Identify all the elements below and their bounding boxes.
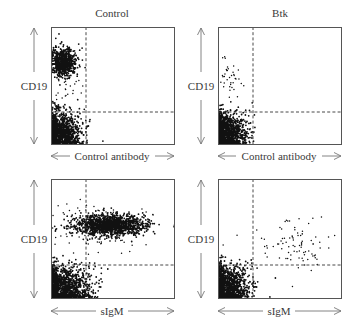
y-axis-label: CD19 xyxy=(188,80,215,92)
y-axis-bottom-right: CD19 xyxy=(188,180,215,298)
column-title-btk: Btk xyxy=(272,7,288,19)
x-axis-top-left: Control antibody xyxy=(51,150,174,162)
x-axis-label: sIgM xyxy=(267,305,290,317)
scatter-panel-bottom-right xyxy=(217,179,341,299)
x-axis-bottom-right: sIgM xyxy=(218,305,341,317)
x-axis-label: Control antibody xyxy=(75,150,150,162)
y-axis-bottom-left: CD19 xyxy=(21,180,48,298)
data-points xyxy=(209,56,256,145)
y-axis-label: CD19 xyxy=(21,80,48,92)
scatter-panel-top-right xyxy=(209,27,342,145)
column-title-control: Control xyxy=(95,7,129,19)
data-points xyxy=(38,33,104,145)
x-axis-top-right: Control antibody xyxy=(218,150,341,162)
scatter-panels xyxy=(24,27,341,299)
flow-cytometry-figure: Control Btk CD19 CD19 CD19 CD19 Control … xyxy=(0,0,361,327)
x-axis-label: Control antibody xyxy=(242,150,317,162)
y-axis-top-left: CD19 xyxy=(21,28,48,144)
x-axis-bottom-left: sIgM xyxy=(51,305,174,317)
y-axis-top-right: CD19 xyxy=(188,28,215,144)
y-axis-label: CD19 xyxy=(188,233,215,245)
y-axis-label: CD19 xyxy=(21,233,48,245)
scatter-panel-top-left xyxy=(38,27,175,145)
data-points xyxy=(24,199,175,299)
data-points xyxy=(217,216,335,299)
x-axis-label: sIgM xyxy=(100,305,123,317)
